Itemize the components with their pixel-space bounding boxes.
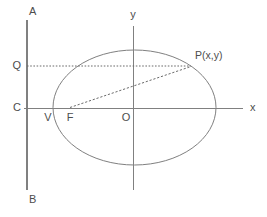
label-focus-f: F (67, 111, 74, 123)
geometry-canvas: A B Q C V F O P(x,y) x y (0, 0, 267, 217)
segment-fp-dotted (70, 67, 191, 108)
label-directrix-bottom-b: B (29, 193, 36, 205)
label-y-axis: y (130, 8, 136, 20)
label-point-p: P(x,y) (195, 49, 222, 61)
label-point-c: C (13, 101, 21, 113)
label-vertex-v: V (44, 111, 52, 123)
label-point-q: Q (12, 59, 21, 71)
label-x-axis: x (250, 101, 256, 113)
ellipse-diagram: A B Q C V F O P(x,y) x y (0, 0, 267, 217)
label-directrix-top-a: A (29, 5, 37, 17)
label-origin-o: O (122, 111, 131, 123)
